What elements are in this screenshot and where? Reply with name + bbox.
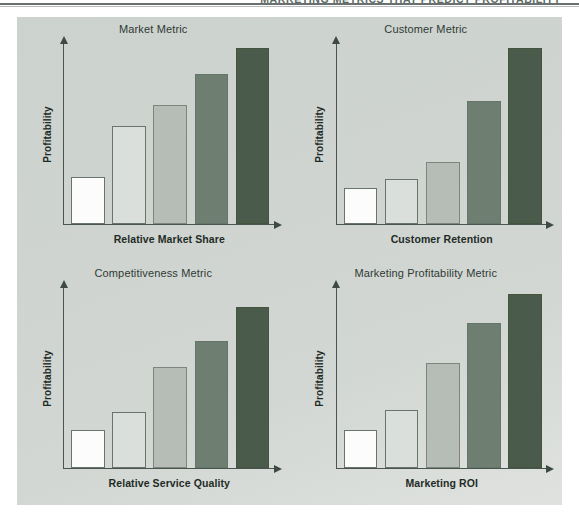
bar <box>508 294 542 468</box>
x-axis-line <box>63 468 276 469</box>
y-axis-line <box>336 287 337 469</box>
y-axis-arrow-icon <box>60 280 68 288</box>
page-header-title: MARKETING METRICS THAT PREDICT PROFITABI… <box>0 0 579 5</box>
x-axis-line <box>336 224 549 225</box>
bar <box>467 323 501 468</box>
plot-area <box>63 43 276 225</box>
bar <box>153 105 187 224</box>
bar <box>508 48 542 224</box>
bar <box>426 162 460 224</box>
plot-area <box>336 287 549 469</box>
y-axis-line <box>63 43 64 225</box>
y-axis-arrow-icon <box>332 280 340 288</box>
chart-title: Competitiveness Metric <box>17 267 290 279</box>
bar-series <box>71 43 270 224</box>
x-axis-arrow-icon <box>546 465 554 473</box>
y-axis-line <box>63 287 64 469</box>
plot-area <box>63 287 276 469</box>
y-axis-label: Profitability <box>39 287 55 469</box>
y-axis-label: Profitability <box>312 43 328 225</box>
bar <box>467 101 501 224</box>
y-axis-label-text: Profitability <box>42 106 53 162</box>
chart-grid: Market Metric Profitability <box>17 17 562 505</box>
bar <box>236 307 270 468</box>
bar <box>195 341 229 468</box>
chart-marketing-profitability-metric: Marketing Profitability Metric Profitabi… <box>290 261 563 505</box>
chart-title: Marketing Profitability Metric <box>290 267 563 279</box>
bar-series <box>344 287 543 468</box>
x-axis-label: Customer Retention <box>336 233 549 245</box>
y-axis-arrow-icon <box>60 36 68 44</box>
bar <box>236 48 270 224</box>
bar <box>195 74 229 224</box>
bar <box>112 126 146 224</box>
figure-panel: Market Metric Profitability <box>17 17 562 505</box>
y-axis-label-text: Profitability <box>314 350 325 406</box>
bar <box>385 179 419 224</box>
bar <box>344 188 378 224</box>
y-axis-label-text: Profitability <box>42 350 53 406</box>
bar <box>426 363 460 468</box>
x-axis-line <box>63 224 276 225</box>
chart-market-metric: Market Metric Profitability <box>17 17 290 261</box>
y-axis-label: Profitability <box>39 43 55 225</box>
bar <box>112 412 146 468</box>
x-axis-arrow-icon <box>274 465 282 473</box>
x-axis-label: Relative Service Quality <box>63 477 276 489</box>
y-axis-label-text: Profitability <box>314 106 325 162</box>
chart-title: Customer Metric <box>290 23 563 35</box>
y-axis-arrow-icon <box>332 36 340 44</box>
bar <box>344 430 378 468</box>
x-axis-label: Relative Market Share <box>63 233 276 245</box>
bar <box>71 430 105 468</box>
x-axis-arrow-icon <box>546 221 554 229</box>
y-axis-label: Profitability <box>312 287 328 469</box>
bar-series <box>71 287 270 468</box>
plot-area <box>336 43 549 225</box>
bar <box>153 367 187 468</box>
x-axis-arrow-icon <box>274 221 282 229</box>
chart-title: Market Metric <box>17 23 290 35</box>
chart-competitiveness-metric: Competitiveness Metric Profitability <box>17 261 290 505</box>
bar <box>385 410 419 468</box>
bar-series <box>344 43 543 224</box>
y-axis-line <box>336 43 337 225</box>
page-header-rule-secondary <box>0 6 579 7</box>
x-axis-line <box>336 468 549 469</box>
x-axis-label: Marketing ROI <box>336 477 549 489</box>
bar <box>71 177 105 224</box>
chart-customer-metric: Customer Metric Profitability <box>290 17 563 261</box>
